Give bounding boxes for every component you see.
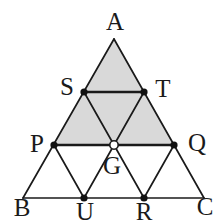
label-B: B [14,194,31,221]
page: ASTPQGBURC [0,0,218,222]
label-P: P [30,130,44,157]
point-dot-T [140,88,147,95]
point-dot-P [50,141,57,148]
label-G: G [103,152,121,179]
label-Q: Q [188,129,206,156]
label-A: A [106,8,124,35]
point-dot-Q [170,141,177,148]
label-R: R [136,198,153,222]
segment-Q-R [144,145,174,198]
label-S: S [60,73,74,100]
point-dot-S [80,88,87,95]
segment-P-U [54,145,84,198]
label-C: C [197,193,214,220]
label-U: U [76,198,94,222]
triangle-subdivision-diagram: ASTPQGBURC [0,0,218,222]
point-open-dot-G [110,141,118,149]
label-T: T [155,75,170,102]
